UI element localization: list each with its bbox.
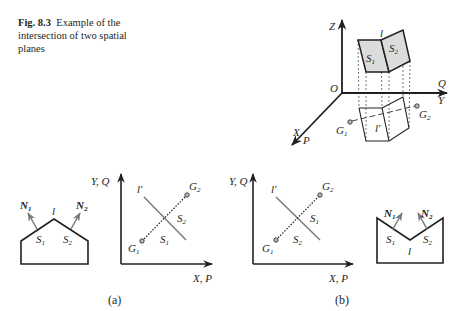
s1-label: S1: [310, 212, 319, 226]
x-axis-label: X, P: [328, 272, 348, 284]
g1-point: [140, 239, 144, 243]
x-axis-label: X, P: [192, 272, 212, 284]
g1-point: [348, 120, 352, 124]
edge-l-label: l: [52, 205, 55, 217]
g2-point: [318, 193, 322, 197]
y-axis-label: Y: [438, 94, 446, 106]
n1-label: N1: [19, 199, 31, 213]
panel-a-label: (a): [108, 293, 121, 307]
s2-label: S2: [293, 233, 303, 247]
panel-b-label: (b): [335, 293, 349, 307]
y-axis-label: Y, Q: [229, 175, 248, 187]
panel-b-profile: N1 N2 S1 S2 l: [377, 207, 443, 263]
g1-label: G1: [336, 124, 347, 138]
g2-point: [185, 193, 189, 197]
edge-l-prime-label: l′: [137, 183, 143, 195]
p-axis-label: P: [302, 134, 310, 146]
g1-label: G1: [128, 242, 139, 256]
x-axis-label: X: [292, 126, 301, 138]
n2-label: N2: [75, 199, 88, 213]
panel-a-profile: N1 N2 l S1 S2: [19, 199, 88, 264]
diagram-3d: Z O Q Y X P S1 S2 l G1 G2 l′: [292, 20, 447, 146]
n1-label: N1: [383, 207, 395, 221]
normal-n1-arrow: [28, 213, 37, 229]
s2-label: S2: [423, 233, 433, 247]
normal-n2-arrow: [71, 213, 80, 229]
s1-label: S1: [160, 233, 169, 247]
s1-label: S1: [36, 233, 45, 247]
g1-point: [274, 238, 278, 242]
edge-l-prime-label: l′: [271, 183, 277, 195]
panel-b-plan: Y, Q X, P l′ G2 G1 S1 S2: [229, 174, 353, 284]
figure-canvas: Z O Q Y X P S1 S2 l G1 G2 l′ N1 N2 l S1 …: [0, 0, 461, 311]
g2-label: G2: [419, 108, 431, 122]
z-axis-label: Z: [329, 20, 336, 32]
s2-label: S2: [63, 233, 73, 247]
g1-label: G1: [262, 242, 273, 256]
g2-label: G2: [189, 180, 201, 194]
s2-label: S2: [177, 212, 187, 226]
q-axis-label: Q: [438, 77, 446, 89]
edge-l-label: l: [408, 245, 411, 257]
edge-l-label: l: [380, 27, 383, 39]
s1-label: S1: [386, 233, 395, 247]
edge-l-prime-label: l′: [375, 122, 381, 134]
n2-label: N2: [420, 207, 433, 221]
g2-label: G2: [322, 180, 334, 194]
panel-a-plan: Y, Q X, P l′ G2 G1 S2 S1: [91, 174, 212, 284]
y-axis-label: Y, Q: [91, 175, 110, 187]
origin-label: O: [330, 82, 338, 94]
